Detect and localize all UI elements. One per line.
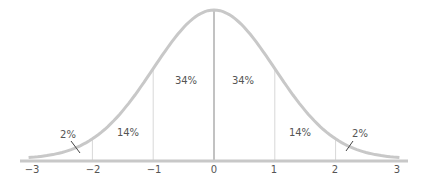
x-tick-3: 3	[394, 164, 400, 175]
band-label-2-3: 2%	[352, 128, 368, 139]
band-label-neg3-neg2: 2%	[60, 129, 76, 140]
x-tick-neg2: −2	[86, 164, 101, 175]
chart-svg	[0, 0, 428, 183]
x-tick-0: 0	[211, 164, 217, 175]
normal-distribution-chart: 2% 14% 34% 34% 14% 2% −3 −2 −1 0 1 2 3	[0, 0, 428, 183]
band-dividers	[92, 10, 335, 161]
band-label-neg2-neg1: 14%	[117, 127, 139, 138]
band-label-neg1-0: 34%	[175, 75, 197, 86]
x-tick-neg3: −3	[25, 164, 40, 175]
band-label-0-1: 34%	[232, 75, 254, 86]
x-tick-1: 1	[271, 164, 277, 175]
x-tick-neg1: −1	[147, 164, 162, 175]
band-label-1-2: 14%	[289, 127, 311, 138]
x-tick-2: 2	[332, 164, 338, 175]
